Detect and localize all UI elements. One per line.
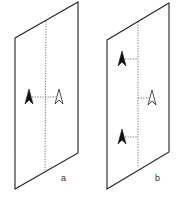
filled-arrow-icon (118, 129, 126, 144)
panel-a: a (15, 2, 78, 189)
sheet-outline (15, 2, 78, 189)
symmetry-diagram: ab (0, 0, 181, 205)
outline-arrow-icon (55, 89, 63, 104)
panel-label: a (61, 173, 66, 183)
symmetry-axis (45, 21, 46, 170)
panel-b: b (107, 3, 169, 189)
filled-arrow-icon (25, 89, 33, 104)
outline-arrow-icon (148, 90, 156, 105)
filled-arrow-icon (118, 51, 126, 66)
panel-label: b (155, 173, 160, 183)
